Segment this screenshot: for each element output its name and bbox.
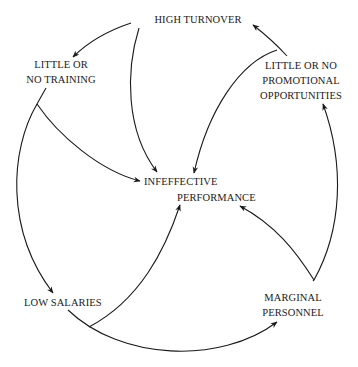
node-label-line: LITTLE OR [16, 57, 106, 72]
arrow-salaries-to-marginal [68, 310, 277, 351]
arrow-marginal-to-promotion [313, 104, 338, 281]
node-marginal-personnel: MARGINAL PERSONNEL [255, 290, 331, 320]
node-label-line: INFEFFECTIVE [144, 174, 264, 189]
node-little-promotion: LITTLE OR NO PROMOTIONAL OPPORTUNITIES [255, 58, 347, 103]
node-label-line: NO TRAINING [16, 72, 106, 87]
node-low-salaries: LOW SALARIES [24, 295, 106, 310]
node-ineffective-performance: INFEFFECTIVE PERFORMANCE [144, 174, 264, 205]
arrow-training-to-performance [37, 104, 140, 181]
node-little-training: LITTLE OR NO TRAINING [16, 57, 106, 87]
node-high-turnover: HIGH TURNOVER [135, 12, 261, 27]
node-label-line: HIGH TURNOVER [135, 12, 261, 27]
node-label-line: MARGINAL [255, 290, 331, 305]
node-label-line: PERFORMANCE [144, 190, 264, 205]
arrow-marginal-to-performance [240, 206, 314, 280]
arrow-promotion-to-turnover [253, 25, 287, 56]
node-label-line: LOW SALARIES [24, 295, 106, 310]
node-label-line: LITTLE OR NO [255, 58, 347, 73]
node-label-line: PERSONNEL [255, 305, 331, 320]
node-label-line: PROMOTIONAL [255, 73, 347, 88]
arrow-turnover-to-performance [131, 28, 157, 172]
causal-loop-diagram: HIGH TURNOVER LITTLE OR NO TRAINING LITT… [0, 0, 358, 367]
arrow-turnover-to-training [73, 23, 131, 57]
node-label-line: OPPORTUNITIES [255, 88, 347, 103]
